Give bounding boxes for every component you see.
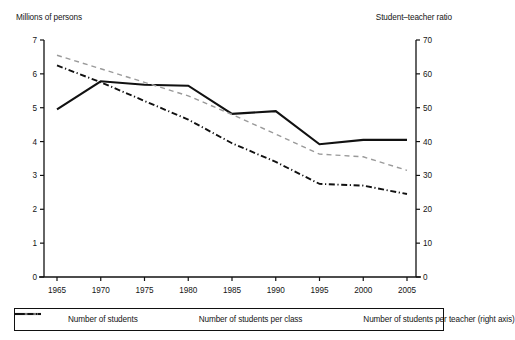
svg-text:10: 10: [423, 239, 433, 248]
svg-text:4: 4: [32, 138, 37, 147]
svg-text:2: 2: [32, 205, 37, 214]
legend-label-students: Number of students: [68, 315, 138, 324]
svg-text:2000: 2000: [354, 286, 373, 295]
series-line-2: [57, 65, 407, 194]
svg-text:1980: 1980: [179, 286, 198, 295]
svg-text:1975: 1975: [135, 286, 154, 295]
svg-text:40: 40: [423, 138, 433, 147]
legend-swatch-dashed: [168, 315, 194, 325]
legend-label-students-per-class: Number of students per class: [199, 315, 303, 324]
legend-item-students: Number of students: [37, 315, 138, 325]
svg-text:1995: 1995: [310, 286, 329, 295]
right-axis-ticks: 010203040506070: [416, 36, 433, 282]
axes: [39, 40, 421, 277]
svg-text:1985: 1985: [223, 286, 242, 295]
svg-text:5: 5: [32, 104, 37, 113]
svg-text:0: 0: [32, 273, 37, 282]
svg-text:70: 70: [423, 36, 433, 45]
svg-text:1970: 1970: [92, 286, 111, 295]
svg-text:1965: 1965: [48, 286, 67, 295]
left-axis-ticks: 01234567: [32, 36, 44, 282]
legend-item-students-per-class: Number of students per class: [168, 315, 303, 325]
series-line-0: [57, 81, 407, 144]
svg-text:50: 50: [423, 104, 433, 113]
legend-item-students-per-teacher: Number of students per teacher (right ax…: [332, 315, 514, 325]
svg-text:0: 0: [423, 273, 428, 282]
svg-text:60: 60: [423, 70, 433, 79]
svg-text:1: 1: [32, 239, 37, 248]
svg-text:2005: 2005: [398, 286, 417, 295]
svg-text:6: 6: [32, 70, 37, 79]
legend-label-students-per-teacher: Number of students per teacher (right ax…: [363, 315, 514, 324]
svg-text:1990: 1990: [267, 286, 286, 295]
chart-legend: Number of students Number of students pe…: [14, 308, 444, 331]
x-axis-ticks: 196519701975198019851990199520002005: [48, 277, 417, 295]
svg-text:30: 30: [423, 171, 433, 180]
data-series: [57, 55, 407, 194]
svg-text:7: 7: [32, 36, 37, 45]
svg-text:20: 20: [423, 205, 433, 214]
legend-swatch-dashdot: [332, 315, 358, 325]
svg-text:3: 3: [32, 171, 37, 180]
